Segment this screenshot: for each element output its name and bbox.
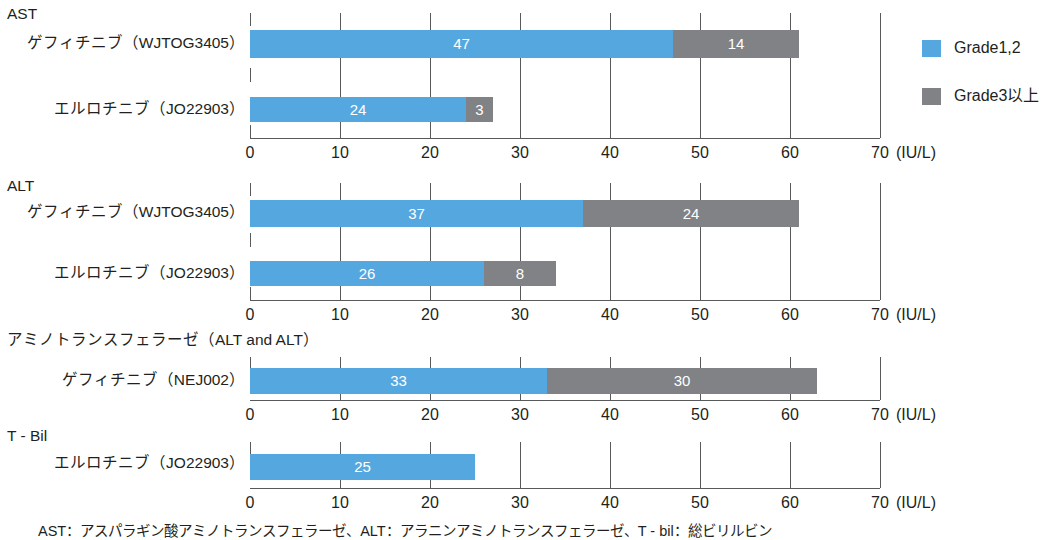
x-tick-label: 20 xyxy=(410,144,450,161)
x-axis-unit-label: (IU/L) xyxy=(896,406,936,423)
bar-value-label: 14 xyxy=(673,36,799,52)
category-label: エルロチニブ（JO22903） xyxy=(54,455,245,471)
panel-ast: AST ゲフィチニブ（WJTOG3405） エルロチニブ（JO22903） 47 xyxy=(0,0,1059,175)
bar-value-label: 33 xyxy=(250,373,547,389)
plot-area: 25 0 10 20 30 40 50 60 70 (IU/L) xyxy=(250,425,880,530)
x-tick-label: 70 xyxy=(860,494,900,511)
x-tick-label: 20 xyxy=(410,406,450,423)
x-tick-label: 30 xyxy=(500,494,540,511)
bar-segment-grade3plus: 3 xyxy=(466,97,493,122)
x-axis-unit-label: (IU/L) xyxy=(896,494,936,511)
x-tick-label: 50 xyxy=(680,494,720,511)
bar-value-label: 26 xyxy=(250,266,484,282)
bar-segment-grade12: 24 xyxy=(250,97,466,122)
x-tick-label: 0 xyxy=(230,406,270,423)
category-label: エルロチニブ（JO22903） xyxy=(54,265,245,281)
bar-segment-grade12: 33 xyxy=(250,368,547,394)
panel-title: T - Bil xyxy=(7,428,47,444)
bar-row: 47 14 xyxy=(250,30,880,58)
x-tick-label: 30 xyxy=(500,144,540,161)
x-tick-label: 20 xyxy=(410,306,450,323)
category-label: エルロチニブ（JO22903） xyxy=(54,101,245,117)
legend-item-grade12: Grade1,2 xyxy=(922,38,1059,58)
bar-value-label: 24 xyxy=(583,206,799,222)
category-label: ゲフィチニブ（WJTOG3405） xyxy=(27,204,245,220)
legend: Grade1,2 Grade3以上 xyxy=(922,38,1059,134)
legend-swatch-icon xyxy=(922,40,941,57)
category-label: ゲフィチニブ（NEJ002） xyxy=(62,372,245,388)
x-tick-label: 70 xyxy=(860,306,900,323)
axis-tick xyxy=(880,183,881,300)
x-tick-label: 70 xyxy=(860,144,900,161)
legend-item-grade3plus: Grade3以上 xyxy=(922,86,1059,106)
x-tick-label: 40 xyxy=(590,144,630,161)
panel-tbil: T - Bil エルロチニブ（JO22903） 25 0 10 20 30 40… xyxy=(0,425,1059,530)
bar-segment-grade3plus: 14 xyxy=(673,30,799,58)
bar-segment-grade3plus: 8 xyxy=(484,261,556,286)
x-tick-label: 50 xyxy=(680,306,720,323)
bar-row: 25 xyxy=(250,454,880,480)
axis-tick xyxy=(250,68,251,82)
x-tick-label: 10 xyxy=(320,306,360,323)
x-axis-unit-label: (IU/L) xyxy=(896,144,936,161)
axis-tick xyxy=(880,442,881,488)
x-tick-label: 60 xyxy=(770,494,810,511)
plot-area: 47 14 24 3 0 10 20 30 40 50 60 xyxy=(250,0,880,175)
axis-tick xyxy=(250,183,251,196)
bar-row: 26 8 xyxy=(250,261,880,286)
axis-tick xyxy=(880,357,881,400)
x-tick-label: 10 xyxy=(320,494,360,511)
bar-value-label: 47 xyxy=(250,36,673,52)
bar-segment-grade12: 47 xyxy=(250,30,673,58)
x-tick-label: 20 xyxy=(410,494,450,511)
x-tick-label: 50 xyxy=(680,406,720,423)
x-axis-unit-label: (IU/L) xyxy=(896,306,936,323)
panel-alt: ALT ゲフィチニブ（WJTOG3405） エルロチニブ（JO22903） 37… xyxy=(0,175,1059,330)
panel-title: AST xyxy=(7,6,37,22)
bar-row: 24 3 xyxy=(250,97,880,122)
legend-swatch-icon xyxy=(922,88,941,105)
bar-segment-grade12: 26 xyxy=(250,261,484,286)
bar-segment-grade3plus: 30 xyxy=(547,368,817,394)
chart-footnote: AST：アスパラギン酸アミノトランスフェラーゼ、ALT：アラニンアミノトランスフ… xyxy=(38,523,772,539)
bar-value-label: 30 xyxy=(547,373,817,389)
x-tick-label: 40 xyxy=(590,306,630,323)
x-axis-line xyxy=(250,488,880,489)
x-axis-line xyxy=(250,138,880,139)
axis-tick xyxy=(250,233,251,247)
bar-value-label: 8 xyxy=(484,266,556,282)
axis-tick xyxy=(250,13,251,26)
legend-label: Grade3以上 xyxy=(954,86,1039,106)
x-tick-label: 50 xyxy=(680,144,720,161)
panel-title: ALT xyxy=(7,178,34,194)
bar-segment-grade12: 37 xyxy=(250,200,583,227)
x-axis-line xyxy=(250,300,880,301)
x-tick-label: 30 xyxy=(500,306,540,323)
x-tick-label: 60 xyxy=(770,406,810,423)
x-tick-label: 0 xyxy=(230,306,270,323)
legend-label: Grade1,2 xyxy=(954,38,1021,58)
x-tick-label: 30 xyxy=(500,406,540,423)
stacked-bar-chart: AST ゲフィチニブ（WJTOG3405） エルロチニブ（JO22903） 47 xyxy=(0,0,1059,540)
bar-value-label: 24 xyxy=(250,102,466,118)
bar-row: 33 30 xyxy=(250,368,880,394)
x-tick-label: 40 xyxy=(590,406,630,423)
bar-segment-grade12: 25 xyxy=(250,454,475,480)
x-tick-label: 0 xyxy=(230,494,270,511)
x-tick-label: 0 xyxy=(230,144,270,161)
category-label: ゲフィチニブ（WJTOG3405） xyxy=(27,35,245,51)
axis-tick xyxy=(250,287,251,300)
axis-tick xyxy=(880,13,881,138)
x-tick-label: 40 xyxy=(590,494,630,511)
bar-segment-grade3plus: 24 xyxy=(583,200,799,227)
plot-area: 37 24 26 8 0 10 20 30 40 50 60 70 xyxy=(250,175,880,330)
bar-value-label: 37 xyxy=(250,206,583,222)
x-axis-line xyxy=(250,400,880,401)
axis-tick xyxy=(250,125,251,139)
x-tick-label: 10 xyxy=(320,144,360,161)
x-tick-label: 60 xyxy=(770,306,810,323)
x-tick-label: 70 xyxy=(860,406,900,423)
x-tick-label: 10 xyxy=(320,406,360,423)
bar-value-label: 3 xyxy=(466,102,493,118)
bar-value-label: 25 xyxy=(250,459,475,475)
